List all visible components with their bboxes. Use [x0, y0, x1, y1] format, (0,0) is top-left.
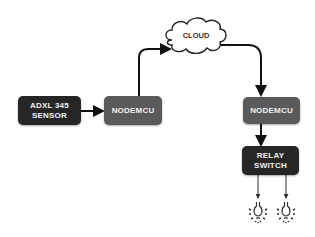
- edge-cloud-to-nodemcu: [220, 45, 261, 95]
- nodemcu-left-node: NODEMCU: [104, 96, 162, 125]
- nodemcu-left-label: NODEMCU: [112, 106, 155, 116]
- light-bulb-icon: [277, 202, 295, 223]
- relay-label-line2: SWITCH: [254, 161, 287, 171]
- cloud-label: CLOUD: [176, 31, 216, 40]
- relay-label-line1: RELAY: [257, 151, 284, 161]
- nodemcu-right-label: NODEMCU: [250, 106, 293, 116]
- sensor-node: ADXL 345 SENSOR: [18, 96, 81, 125]
- relay-switch-node: RELAY SWITCH: [242, 146, 299, 175]
- sensor-label-line2: SENSOR: [32, 111, 67, 121]
- light-bulb-icon: [249, 202, 267, 223]
- nodemcu-right-node: NODEMCU: [243, 97, 300, 124]
- edge-nodemcu-to-cloud: [139, 49, 170, 96]
- sensor-label-line1: ADXL 345: [30, 101, 69, 111]
